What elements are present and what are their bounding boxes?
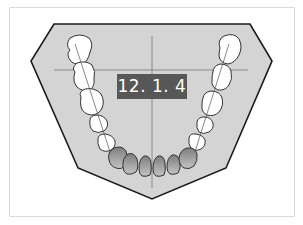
dental-arch-diagram xyxy=(0,0,303,225)
canine-right xyxy=(179,148,197,169)
tooth-right-3 xyxy=(202,91,223,116)
tooth-left-2 xyxy=(73,62,94,91)
incisor-left-lateral xyxy=(123,154,138,175)
diagram-label: 12. 1. 4 xyxy=(117,74,187,99)
tooth-left-3 xyxy=(80,89,103,115)
incisor-right-lateral xyxy=(167,155,180,174)
incisor-right-central xyxy=(153,156,165,176)
incisor-left-central xyxy=(139,156,151,176)
